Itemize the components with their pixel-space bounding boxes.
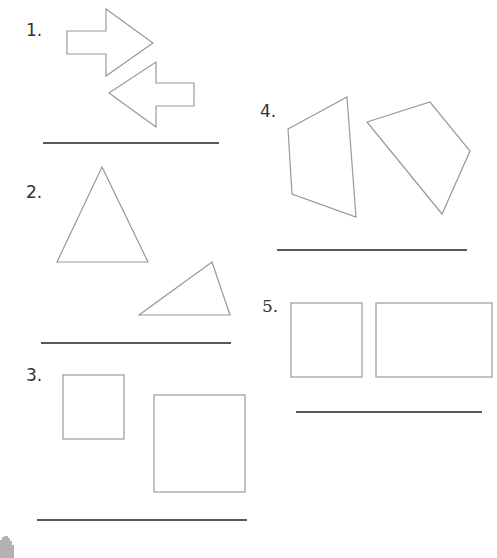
quadrilateral-b-shape [367,102,470,214]
worksheet-figures [0,0,497,558]
quadrilateral-a-shape [288,97,356,217]
left-arrow-shape [109,62,194,127]
square-shape [291,303,362,377]
right-arrow-shape [67,9,153,76]
large-square-shape [154,395,245,492]
small-triangle-shape [139,262,230,315]
rectangle-shape [376,303,492,377]
small-square-shape [63,375,124,439]
striped-corner-decoration [1,536,13,558]
large-triangle-shape [57,167,148,262]
